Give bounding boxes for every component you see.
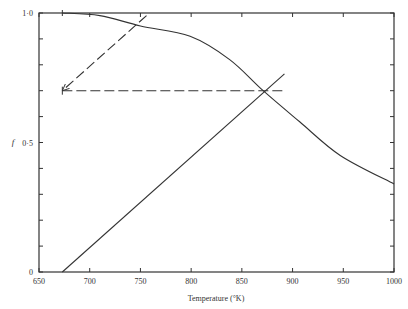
plot-frame xyxy=(39,13,394,272)
rising-line-line xyxy=(62,74,284,272)
decreasing-curve-line xyxy=(62,13,394,184)
y-tick-label: 0 xyxy=(29,268,33,277)
x-axis-label: Temperature (°K) xyxy=(188,294,245,303)
x-tick-label: 900 xyxy=(287,277,299,286)
y-axis-label: f xyxy=(12,137,16,147)
x-tick-label: 800 xyxy=(185,277,197,286)
chart: 650700750800850900950100000·51·0 Tempera… xyxy=(0,0,408,309)
x-tick-label: 650 xyxy=(33,277,45,286)
x-tick-label: 950 xyxy=(337,277,349,286)
x-tick-label: 700 xyxy=(84,277,96,286)
x-tick-label: 750 xyxy=(134,277,146,286)
diagonal-construction-arrow-line xyxy=(62,16,146,91)
x-tick-label: 1000 xyxy=(386,277,402,286)
data-series xyxy=(62,10,394,272)
x-tick-label: 850 xyxy=(236,277,248,286)
y-tick-label: 1·0 xyxy=(22,9,33,18)
y-tick-label: 0·5 xyxy=(22,139,33,148)
axis-ticks: 650700750800850900950100000·51·0 xyxy=(22,9,402,286)
